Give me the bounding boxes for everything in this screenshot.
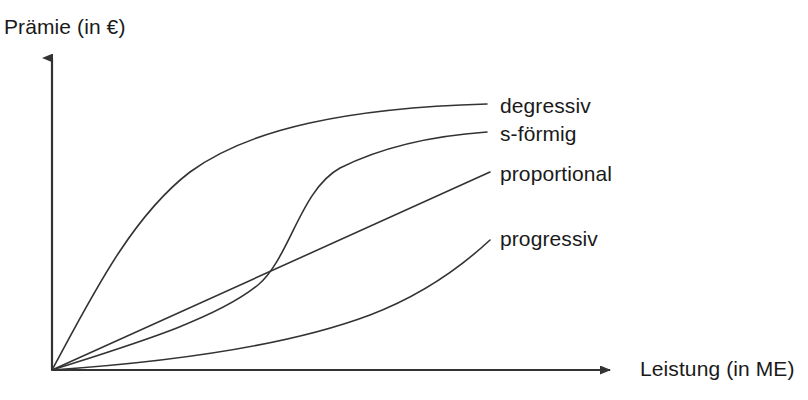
- curve-progressiv: [52, 240, 490, 370]
- curve-label-progressiv: progressiv: [500, 228, 598, 249]
- curve-s-foermig: [52, 132, 487, 370]
- y-axis-label: Prämie (in €): [4, 16, 126, 37]
- curve-label-s-foermig: s-förmig: [500, 123, 577, 144]
- curve-degressiv: [52, 104, 487, 370]
- chart-container: Prämie (in €) Leistung (in ME) degressiv…: [0, 0, 808, 400]
- curve-proportional: [52, 172, 490, 370]
- curve-label-proportional: proportional: [500, 163, 612, 184]
- curve-label-degressiv: degressiv: [500, 95, 591, 116]
- chart-plot-area: [0, 0, 808, 400]
- x-axis-label: Leistung (in ME): [640, 358, 795, 379]
